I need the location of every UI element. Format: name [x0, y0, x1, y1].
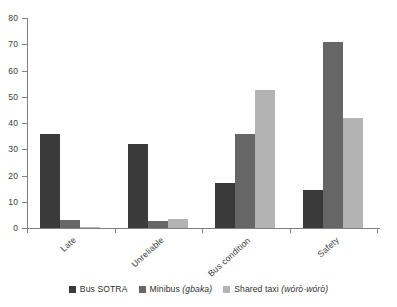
bar-group [303, 18, 363, 228]
bar [60, 220, 80, 228]
legend-item: Shared taxi (wórò-wórò) [223, 284, 328, 294]
bar [40, 134, 60, 229]
y-axis-tick-label: 50 [0, 93, 18, 102]
bar-chart: 01020304050607080 LateUnreliableBus cond… [0, 0, 397, 307]
bar [128, 144, 148, 228]
bar [80, 227, 100, 228]
bar-group [215, 18, 275, 228]
legend-label-local-name: (gbaka) [182, 284, 212, 294]
x-axis-tick [377, 228, 378, 233]
bar [148, 221, 168, 228]
plot-area [27, 18, 377, 228]
legend-label-local-name: (wórò-wórò) [281, 284, 328, 294]
y-axis-tick-label: 0 [0, 224, 18, 233]
x-axis-tick [290, 228, 291, 233]
legend-label: Shared taxi (wórò-wórò) [234, 284, 328, 294]
chart-legend: Bus SOTRAMinibus (gbaka)Shared taxi (wór… [0, 284, 397, 294]
bar [303, 190, 323, 228]
bar-group [128, 18, 188, 228]
x-axis-tick [115, 228, 116, 233]
bar-group [40, 18, 100, 228]
bar [323, 42, 343, 228]
y-axis-tick-label: 80 [0, 14, 18, 23]
legend-item: Minibus (gbaka) [139, 284, 213, 294]
bar [215, 183, 235, 228]
y-axis-tick-label: 70 [0, 40, 18, 49]
legend-label: Bus SOTRA [80, 284, 128, 294]
x-axis-label-unreliable: Unreliable [129, 235, 166, 269]
x-axis-label-bus-condition: Bus condition [206, 235, 252, 278]
bar [255, 90, 275, 228]
y-axis-tick-label: 20 [0, 172, 18, 181]
y-axis-tick-label: 10 [0, 198, 18, 207]
x-axis-label-safety: Safety [315, 235, 340, 259]
x-axis-tick [202, 228, 203, 233]
legend-swatch-icon [223, 286, 230, 293]
bar [235, 134, 255, 229]
bar [343, 118, 363, 228]
x-axis-label-late: Late [59, 235, 79, 254]
legend-item: Bus SOTRA [69, 284, 128, 294]
bar [168, 219, 188, 228]
y-axis-tick-label: 60 [0, 67, 18, 76]
legend-swatch-icon [69, 286, 76, 293]
legend-label: Minibus (gbaka) [150, 284, 213, 294]
y-axis-tick-label: 30 [0, 145, 18, 154]
x-axis-tick [27, 228, 28, 233]
legend-swatch-icon [139, 286, 146, 293]
x-axis-line [27, 228, 380, 229]
y-axis-tick-label: 40 [0, 119, 18, 128]
